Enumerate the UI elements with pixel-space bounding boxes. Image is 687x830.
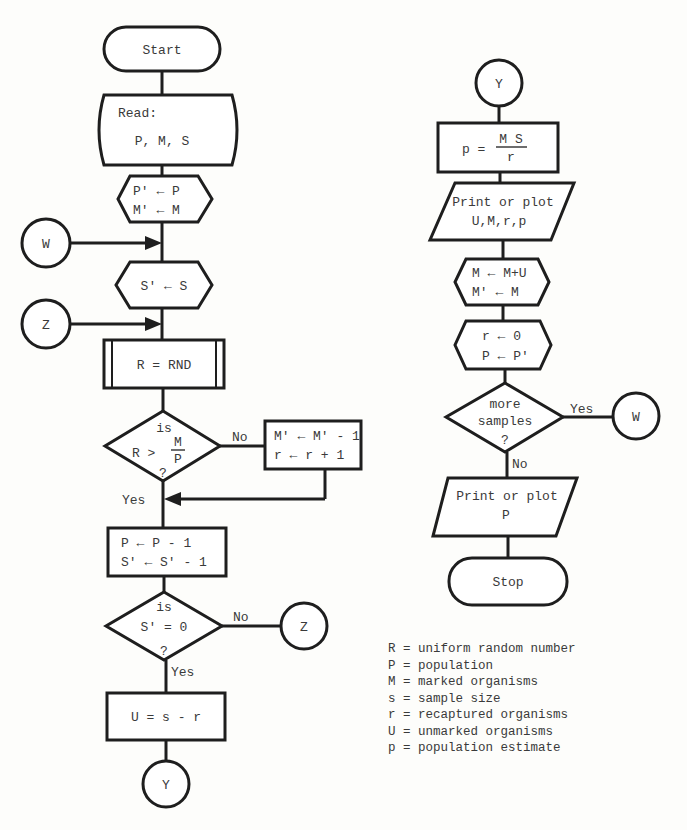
decrement-box: P ← P - 1 S' ← S' - 1 xyxy=(108,528,226,576)
print-population-output: Print or plot P xyxy=(433,478,577,536)
legend: R = uniform random number P = population… xyxy=(388,641,576,757)
read-variables: P, M, S xyxy=(135,134,190,149)
decision-more-samples: more samples ? xyxy=(446,383,563,452)
recapture-line2: r ← r + 1 xyxy=(274,448,344,463)
connector-y-out: Y xyxy=(143,761,189,807)
legend-item: p = population estimate xyxy=(388,740,576,757)
legend-item: r = recaptured organisms xyxy=(388,707,576,724)
connector-y-in-label: Y xyxy=(495,77,503,92)
update-line2: M' ← M xyxy=(472,285,519,300)
read-label: Read: xyxy=(118,106,157,121)
connector-z-label: Z xyxy=(42,318,50,333)
decision1-yes-label: Yes xyxy=(122,493,145,508)
connector-z-out-label: Z xyxy=(300,620,308,635)
print2-line2: P xyxy=(502,508,510,523)
decision2-no-label: No xyxy=(233,610,249,625)
decrement-line2: S' ← S' - 1 xyxy=(121,555,207,570)
sample-init-hexagon: S' ← S xyxy=(116,262,212,308)
unmarked-label: U = s - r xyxy=(131,710,201,725)
decision2-is: is xyxy=(156,600,172,615)
decision1-question: ? xyxy=(159,466,167,481)
connector-z-out: Z xyxy=(281,603,327,649)
start-terminal: Start xyxy=(104,27,220,71)
estimate-frac-den: r xyxy=(507,150,515,165)
decision1-frac-num: M xyxy=(174,435,182,450)
connector-y-out-label: Y xyxy=(162,778,170,793)
reset-line1: r ← 0 xyxy=(482,329,521,344)
init2-label: S' ← S xyxy=(141,279,188,294)
decision2-yes-label: Yes xyxy=(171,665,194,680)
stop-label: Stop xyxy=(492,575,523,590)
recapture-line1: M' ← M' - 1 xyxy=(274,429,360,444)
print2-line1: Print or plot xyxy=(456,489,557,504)
decrement-line1: P ← P - 1 xyxy=(121,536,191,551)
connector-y-in: Y xyxy=(476,60,522,106)
estimate-frac-num: M S xyxy=(499,132,523,147)
decision-random-check: is R > M P ? xyxy=(105,411,220,481)
random-process-box: R = RND xyxy=(104,340,224,388)
update-marked-hexagon: M ← M+U M' ← M xyxy=(455,259,549,305)
decision1-lhs: R > xyxy=(132,446,156,461)
read-input-box: Read: P, M, S xyxy=(99,95,237,165)
connector-w-in: W xyxy=(22,219,70,267)
stop-terminal: Stop xyxy=(449,558,567,605)
connector-w-label: W xyxy=(42,237,50,252)
arrowhead-icon xyxy=(145,236,162,250)
legend-item: P = population xyxy=(388,658,576,675)
decision3-yes-label: Yes xyxy=(570,402,593,417)
recapture-box: M' ← M' - 1 r ← r + 1 xyxy=(265,421,361,469)
print1-line2: U,M,r,p xyxy=(472,214,527,229)
decision2-condition: S' = 0 xyxy=(141,620,188,635)
init-preparation-hexagon: P' ← P M' ← M xyxy=(118,176,212,222)
reset-hexagon: r ← 0 P ← P' xyxy=(455,321,551,369)
legend-item: s = sample size xyxy=(388,691,576,708)
connector-w-out: W xyxy=(613,393,659,439)
reset-line2: P ← P' xyxy=(482,349,529,364)
decision-sample-done: is S' = 0 ? xyxy=(106,592,222,660)
decision3-line1: more xyxy=(489,397,520,412)
estimate-lhs: p = xyxy=(462,142,486,157)
decision3-line2: samples xyxy=(478,414,533,429)
init1-line2: M' ← M xyxy=(133,203,180,218)
unmarked-box: U = s - r xyxy=(107,693,225,740)
decision1-no-label: No xyxy=(232,430,248,445)
decision1-frac-den: P xyxy=(174,452,182,467)
legend-item: M = marked organisms xyxy=(388,674,576,691)
random-label: R = RND xyxy=(137,358,192,373)
connector-z-in: Z xyxy=(22,300,70,348)
decision2-question: ? xyxy=(160,644,168,659)
print1-line1: Print or plot xyxy=(452,195,553,210)
decision3-no-label: No xyxy=(512,457,528,472)
decision3-question: ? xyxy=(501,433,509,448)
arrowhead-icon xyxy=(145,317,162,331)
init1-line1: P' ← P xyxy=(133,184,180,199)
start-label: Start xyxy=(142,43,181,58)
legend-item: U = unmarked organisms xyxy=(388,724,576,741)
legend-item: R = uniform random number xyxy=(388,641,576,658)
connector-w-out-label: W xyxy=(632,410,640,425)
update-line1: M ← M+U xyxy=(472,266,527,281)
flowchart-canvas: Start Read: P, M, S P' ← P M' ← M W S' ←… xyxy=(0,0,687,830)
decision1-is: is xyxy=(156,421,172,436)
estimate-box: p = M S r xyxy=(438,123,558,172)
arrowhead-icon xyxy=(164,492,181,506)
print-results-output: Print or plot U,M,r,p xyxy=(430,183,574,240)
